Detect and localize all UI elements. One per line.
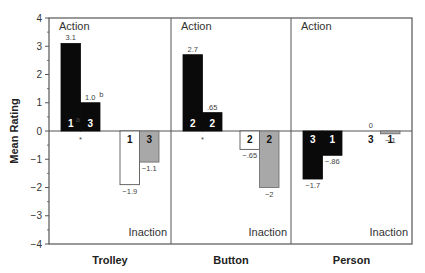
condition-number: 3 [146,134,152,145]
y-tick-label: 4 [36,13,42,24]
y-tick-label: 1 [36,97,42,108]
inaction-label: Inaction [128,226,167,238]
value-label: 1.0 [85,93,95,102]
condition-number: 3 [87,118,93,129]
value-label: 3.1 [66,33,76,42]
value-label: −1.7 [305,181,320,190]
category-label: Person [333,254,371,266]
y-tick-label: −2 [31,182,43,193]
y-tick-label: −1 [31,154,43,165]
category-label: Button [213,254,249,266]
condition-number: 2 [190,118,196,129]
significance-marker: * [79,135,82,144]
condition-number: 1 [127,134,133,145]
inaction-label: Inaction [248,226,287,238]
condition-number: 2 [247,134,253,145]
value-label: −.86 [325,157,340,166]
category-label: Trolley [92,254,128,266]
bar-chart: 43210−1−2−3−4Mean RatingActionInactionTr… [0,0,425,273]
condition-number: 2 [209,118,215,129]
y-tick-label: 3 [36,41,42,52]
y-tick-label: 0 [36,126,42,137]
value-label: −1.1 [142,164,157,173]
y-tick-label: 2 [36,69,42,80]
action-label: Action [301,20,332,32]
significance-marker: * [201,135,204,144]
condition-number: 3 [368,134,374,145]
inaction-label: Inaction [369,226,408,238]
condition-number: 1 [387,134,393,145]
value-label: −1.9 [122,187,137,196]
value-label: 0 [369,121,373,130]
action-label: Action [59,20,90,32]
action-label: Action [181,20,212,32]
condition-number: 2 [266,134,272,145]
y-tick-label: −4 [31,239,43,250]
y-tick-label: −3 [31,210,43,221]
value-label: 2.7 [188,45,198,54]
superscript-label: b [99,90,103,99]
condition-number: 3 [310,134,316,145]
condition-number: 1 [68,118,74,129]
y-axis-label: Mean Rating [8,98,20,163]
condition-number: 1 [329,134,335,145]
value-label: −2 [265,190,274,199]
value-label: .65 [207,103,217,112]
value-label: −.65 [242,151,257,160]
